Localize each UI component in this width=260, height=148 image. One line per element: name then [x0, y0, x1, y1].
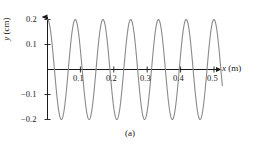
y-tick-label-0.2: 0.2 [26, 15, 37, 24]
wave-plot [0, 0, 260, 148]
x-tick-label-0.4: 0.4 [173, 74, 184, 83]
x-tick-label-0.2: 0.2 [106, 74, 117, 83]
x-tick-label-0.5: 0.5 [207, 74, 218, 83]
y-axis-title: y (cm) [2, 6, 11, 52]
wave-figure-panel: 0.2 0.1 −0.1 −0.2 0.1 0.2 0.3 0.4 0.5 x … [0, 0, 260, 148]
x-tick-label-0.3: 0.3 [140, 74, 151, 83]
x-axis-title-unit: (m) [226, 63, 241, 73]
y-tick-label-minus-0.2: −0.2 [21, 115, 36, 124]
x-axis-title: x (m) [222, 64, 241, 73]
panel-caption: (a) [0, 129, 260, 138]
y-tick-label-0.1: 0.1 [26, 40, 37, 49]
x-tick-label-0.1: 0.1 [73, 74, 84, 83]
y-tick-label-minus-0.1: −0.1 [21, 90, 36, 99]
y-axis-title-unit: (cm) [1, 17, 11, 36]
y-axis-title-variable: y [1, 37, 11, 41]
